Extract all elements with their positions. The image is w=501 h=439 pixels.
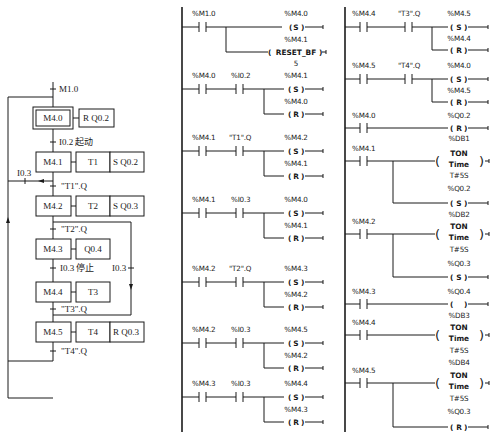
svg-text:): ) [319,48,322,57]
svg-text:T#5S: T#5S [449,346,469,355]
svg-text:%M4.0: %M4.0 [352,111,376,120]
sfc-transition: I0.3 [112,263,127,273]
svg-text:%M4.0: %M4.0 [284,195,308,204]
svg-text:Time: Time [449,334,469,343]
svg-text:TON: TON [450,371,468,380]
svg-text:%Q0.4: %Q0.4 [448,287,472,296]
svg-text:%I0.3: %I0.3 [231,195,250,204]
ladder-rung: %M4.4 "T3".Q %M4.5 (S) %M4.4 (R) [345,9,488,55]
svg-text:R: R [456,98,462,107]
svg-text:): ) [301,393,304,402]
svg-text:%M4.5: %M4.5 [447,86,470,95]
ladder-rung: %M4.2 %I0.3 %M4.5 (S) %M4.2 (R) [182,325,323,373]
svg-text:): ) [301,234,304,243]
svg-text:(: ( [288,418,291,427]
svg-text:%M4.5: %M4.5 [352,366,375,375]
svg-text:(: ( [435,376,440,391]
svg-text:(: ( [450,98,453,107]
svg-text:S: S [456,75,461,84]
svg-text:%M4.5: %M4.5 [352,61,375,70]
svg-text:): ) [464,46,467,55]
svg-text:%M4.3: %M4.3 [192,379,215,388]
arrow-up-icon [6,217,10,223]
svg-text:%M4.2: %M4.2 [284,351,307,360]
svg-text:(: ( [288,339,291,348]
svg-text:): ) [464,423,467,432]
svg-text:S: S [293,339,298,348]
svg-text:T4: T4 [88,327,98,337]
svg-text:%Q0.2: %Q0.2 [448,184,471,193]
svg-text:%M4.1: %M4.1 [352,144,375,153]
svg-text:%M4.1: %M4.1 [284,221,307,230]
svg-text:): ) [301,364,304,373]
sfc-transition: "T2".Q [61,224,88,234]
svg-text:S: S [293,23,298,32]
svg-text:(: ( [288,278,291,287]
svg-text:%M4.4: %M4.4 [284,379,308,388]
svg-text:%M4.2: %M4.2 [284,133,307,142]
svg-text:5: 5 [294,59,298,68]
svg-text:M4.0: M4.0 [43,113,63,123]
svg-text:): ) [301,418,304,427]
ladder-column-2: %M4.4 "T3".Q %M4.5 (S) %M4.4 (R) %M4.5 "… [345,7,489,432]
svg-text:"T1".Q: "T1".Q [229,133,252,142]
svg-text:): ) [479,328,484,343]
svg-text:"T2".Q: "T2".Q [229,264,252,273]
ladder-rung: %M4.1 %I0.3 %M4.0 (S) %M4.1 (R) [182,195,323,243]
svg-text:S Q0.2: S Q0.2 [113,157,138,167]
svg-text:M4.3: M4.3 [43,244,63,254]
svg-text:(: ( [288,172,291,181]
svg-text:Time: Time [449,382,469,391]
svg-text:): ) [301,147,304,156]
sfc-step-m40: M4.0 R Q0.2 [33,107,114,129]
ladder-rung: %M4.1 "T1".Q %M4.2 (S) %M4.1 (R) [182,133,323,181]
svg-text:%M4.3: %M4.3 [284,405,307,414]
svg-text:M4.1: M4.1 [43,157,62,167]
svg-text:): ) [464,300,467,309]
sfc-step-m44: M4.4 T3 [36,282,110,302]
svg-text:Time: Time [449,160,469,169]
ladder-rung: %M4.2 %DB2 ( TON Time ) T#5S %Q0.3 (S) [345,210,489,282]
svg-text:): ) [464,75,467,84]
svg-text:%M4.1: %M4.1 [192,133,215,142]
svg-text:): ) [479,376,484,391]
svg-text:R Q0.3: R Q0.3 [113,327,140,337]
svg-text:%M4.3: %M4.3 [284,264,307,273]
svg-text:): ) [464,98,467,107]
svg-text:%DB4: %DB4 [448,358,470,367]
svg-text:R: R [456,423,462,432]
svg-text:(: ( [435,227,440,242]
svg-text:R: R [293,303,299,312]
svg-text:): ) [301,278,304,287]
svg-text:): ) [464,124,467,133]
svg-text:): ) [464,23,467,32]
svg-text:(: ( [450,300,453,309]
arrow-down-icon [129,284,133,290]
svg-text:%M4.3: %M4.3 [352,287,375,296]
sfc-step-m41: M4.1 T1 S Q0.2 [36,152,144,172]
svg-text:(: ( [450,273,453,282]
svg-text:T#5S: T#5S [449,171,469,180]
svg-text:M4.5: M4.5 [43,327,63,337]
svg-text:%M4.0: %M4.0 [284,9,308,18]
ladder-rung: %M4.1 %DB1 ( TON Time ) T#5S %Q0.2 (S) [345,134,489,208]
ladder-rung: %M4.3 %I0.3 %M4.4 (S) %M4.3 (R) [182,379,323,427]
svg-text:T1: T1 [88,157,98,167]
svg-text:Time: Time [449,233,469,242]
svg-text:%M4.4: %M4.4 [447,34,471,43]
svg-text:S: S [456,23,461,32]
svg-text:S Q0.3: S Q0.3 [113,201,139,211]
svg-text:): ) [464,199,467,208]
svg-text:%Q0.3: %Q0.3 [448,259,471,268]
svg-text:%DB2: %DB2 [448,210,469,219]
svg-text:(: ( [450,23,453,32]
svg-text:S: S [293,278,298,287]
svg-text:): ) [479,154,484,169]
svg-text:%M4.4: %M4.4 [352,318,376,327]
ladder-rung: %M1.0 %M4.0 (S) %M4.1 (RESET_BF) 5 [182,9,326,68]
svg-text:S: S [293,209,298,218]
svg-text:(: ( [288,147,291,156]
svg-text:R: R [456,46,462,55]
svg-text:TON: TON [450,149,468,158]
svg-text:%M4.5: %M4.5 [447,9,470,18]
